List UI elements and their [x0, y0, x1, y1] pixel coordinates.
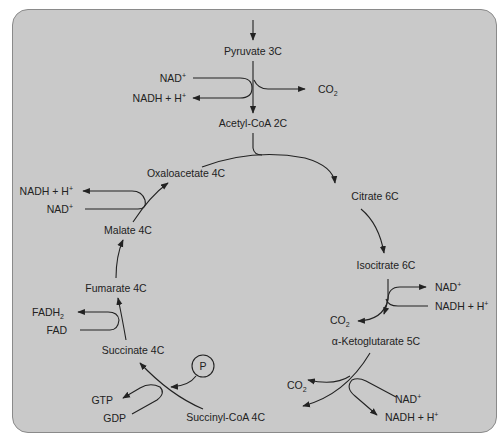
arrow-co2-1: [254, 80, 305, 89]
label-oxaloacetate: Oxaloacetate 4C: [147, 167, 226, 179]
arrow-co2-2: [358, 300, 388, 321]
label-nad-3: NAD+: [395, 393, 421, 405]
label-nadh-3: NADH + H+: [385, 411, 438, 423]
arrow-malate-to-oxaloacetate: [133, 183, 168, 222]
arrow-nad-to-nadh-3: [349, 379, 396, 415]
label-co2-1: CO2: [318, 83, 338, 97]
label-fad: FAD: [47, 324, 68, 336]
label-gtp: GTP: [91, 394, 113, 406]
label-nadh-2: NADH + H+: [435, 300, 488, 312]
label-isocitrate: Isocitrate 6C: [357, 259, 416, 271]
label-citrate: Citrate 6C: [351, 190, 399, 202]
arrow-nad-to-nadh-4: [83, 191, 145, 209]
label-phosphate: P: [199, 360, 206, 372]
label-nadh-out-1: NADH + H+: [133, 92, 186, 104]
arrow-succinylcoa-to-succinate: [140, 363, 203, 409]
label-co2-2: CO2: [330, 314, 350, 328]
label-co2-3: CO2: [287, 379, 307, 393]
arrow-akg-to-succinylcoa: [303, 353, 370, 406]
label-nad-2: NAD+: [435, 281, 461, 293]
krebs-cycle-diagram: Pyruvate 3C NAD+ NADH + H+ CO2 Acetyl-Co…: [0, 0, 502, 439]
line-nadh-2: [386, 299, 428, 306]
arrow-co2-3: [308, 376, 350, 382]
label-acetyl-coa: Acetyl-CoA 2C: [219, 117, 288, 129]
label-pyruvate: Pyruvate 3C: [224, 45, 282, 57]
label-fumarate: Fumarate 4C: [85, 282, 147, 294]
label-nad-4: NAD+: [47, 203, 73, 215]
label-nadh-4: NADH + H+: [20, 185, 73, 197]
label-succinyl-coa: Succinyl-CoA 4C: [186, 411, 265, 423]
label-fadh2: FADH2: [32, 306, 64, 320]
arrow-phosphate-in: [171, 376, 196, 387]
label-gdp: GDP: [103, 412, 126, 424]
label-nad-in-1: NAD+: [160, 72, 186, 84]
arrow-gdp-to-gtp: [123, 385, 162, 414]
label-malate: Malate 4C: [104, 224, 152, 236]
arrow-fad-to-fadh2: [78, 312, 119, 330]
label-succinate: Succinate 4C: [102, 344, 165, 356]
arrow-citrate-to-isocitrate: [361, 209, 384, 253]
arrow-nad-to-nadh-1: [193, 78, 252, 98]
acetylcoa-join: [253, 133, 262, 155]
label-alpha-ketoglutarate: α-Ketoglutarate 5C: [332, 335, 421, 347]
arrow-to-nad-2: [388, 287, 426, 300]
arrow-fumarate-to-malate: [116, 240, 123, 278]
